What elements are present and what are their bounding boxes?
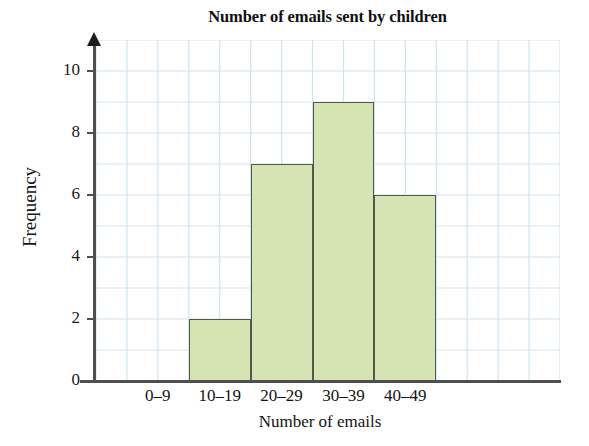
bar	[374, 195, 436, 381]
x-axis-line	[80, 380, 561, 383]
y-axis-arrow-icon	[87, 32, 101, 46]
y-axis-tick	[87, 380, 96, 382]
y-axis-title: Frequency	[19, 137, 41, 277]
y-axis-tick	[87, 70, 96, 72]
x-axis-title: Number of emails	[150, 412, 490, 432]
bar	[313, 102, 375, 381]
y-axis-tick	[87, 194, 96, 196]
y-axis-tick-label: 2	[52, 308, 80, 328]
y-axis-tick-label: 4	[52, 246, 80, 266]
bar	[189, 319, 251, 381]
bar	[251, 164, 313, 381]
y-axis-tick-label: 0	[52, 370, 80, 390]
bar-chart: Number of emails sent by children 024681…	[0, 0, 589, 446]
chart-title: Number of emails sent by children	[95, 7, 560, 27]
y-axis-tick-label: 8	[52, 122, 80, 142]
x-axis-category-label: 0–9	[127, 386, 189, 406]
y-axis-tick-label: 10	[52, 60, 80, 80]
x-axis-category-label: 20–29	[251, 386, 313, 406]
plot-area	[96, 40, 560, 381]
x-axis-category-label: 10–19	[189, 386, 251, 406]
y-axis-tick	[87, 318, 96, 320]
y-axis-tick-label: 6	[52, 184, 80, 204]
y-axis-line	[93, 44, 96, 382]
x-axis-category-label: 40–49	[374, 386, 436, 406]
x-axis-category-label: 30–39	[313, 386, 375, 406]
y-axis-tick	[87, 256, 96, 258]
y-axis-tick	[87, 132, 96, 134]
